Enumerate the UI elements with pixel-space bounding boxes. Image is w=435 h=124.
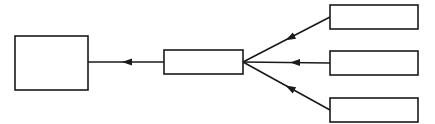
target-box	[15, 36, 88, 90]
source-middle-box	[330, 51, 418, 75]
hub-box	[164, 50, 243, 74]
arrowhead-middle-icon	[290, 59, 300, 66]
arrowhead-left-icon	[122, 59, 132, 66]
flow-diagram	[0, 0, 435, 124]
source-bottom-box	[330, 98, 418, 122]
arrowhead-bottom-icon	[284, 83, 296, 94]
source-top-box	[330, 5, 418, 29]
arrowhead-top-icon	[284, 33, 296, 44]
edge-middle-to-hub	[243, 62, 330, 63]
